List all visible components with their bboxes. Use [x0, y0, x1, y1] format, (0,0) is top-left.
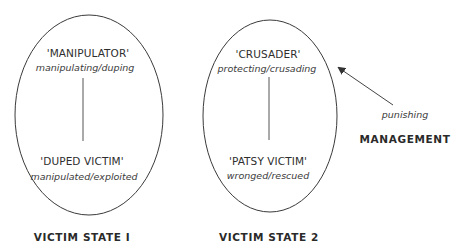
patsy-victim-label: 'PATSY VICTIM' — [229, 155, 307, 167]
manipulator-verb: manipulating/duping — [36, 62, 135, 73]
duped-victim-label: 'DUPED VICTIM' — [40, 155, 124, 167]
diagram-shapes — [0, 0, 460, 252]
management-title: MANAGEMENT — [360, 133, 451, 145]
victim-state-2-title: VICTIM STATE 2 — [219, 231, 319, 243]
manipulator-label: 'MANIPULATOR' — [47, 47, 130, 59]
punishing-arrow — [339, 68, 393, 105]
state1-ellipse — [15, 15, 163, 215]
crusader-label: 'CRUSADER' — [235, 48, 300, 60]
crusader-verb: protecting/crusading — [218, 63, 317, 74]
punishing-label: punishing — [382, 109, 428, 120]
victim-state-1-title: VICTIM STATE I — [34, 231, 130, 243]
patsy-victim-verb: wronged/rescued — [227, 170, 309, 181]
duped-victim-verb: manipulated/exploited — [30, 171, 137, 182]
